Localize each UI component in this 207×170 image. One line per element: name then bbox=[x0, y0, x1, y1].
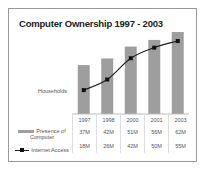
value-cell: 55M bbox=[169, 139, 193, 153]
table-row-computer: 37M 42M 51M 56M 62M bbox=[73, 125, 193, 139]
line-marker bbox=[105, 77, 109, 81]
legend-computer: Presence of Computer bbox=[14, 128, 70, 140]
value-cell: 42M bbox=[121, 139, 145, 153]
line-marker bbox=[176, 39, 180, 43]
legend-internet: Internet Access bbox=[14, 147, 70, 153]
value-cell: 18M bbox=[73, 139, 97, 153]
line-marker-icon bbox=[15, 150, 29, 151]
value-cell: 50M bbox=[145, 139, 169, 153]
bar bbox=[172, 32, 184, 114]
table-header-row: 1997 1998 2000 2001 2003 bbox=[73, 115, 193, 125]
data-table: 1997 1998 2000 2001 2003 37M 42M 51M 56M… bbox=[72, 115, 192, 153]
year-cell: 1997 bbox=[73, 115, 97, 125]
value-cell: 37M bbox=[73, 125, 97, 139]
year-cell: 1998 bbox=[97, 115, 121, 125]
value-cell: 51M bbox=[121, 125, 145, 139]
value-cell: 26M bbox=[97, 139, 121, 153]
line-marker bbox=[82, 88, 86, 92]
bar bbox=[148, 40, 160, 114]
line-marker bbox=[129, 56, 133, 60]
bar-swatch-icon bbox=[18, 130, 34, 133]
value-cell: 56M bbox=[145, 125, 169, 139]
bar-series bbox=[78, 32, 184, 114]
year-cell: 2000 bbox=[121, 115, 145, 125]
year-cell: 2001 bbox=[145, 115, 169, 125]
bar bbox=[101, 58, 113, 114]
line-marker bbox=[152, 46, 156, 50]
value-cell: 42M bbox=[97, 125, 121, 139]
year-cell: 2003 bbox=[169, 115, 193, 125]
table-row-internet: 18M 26M 42M 50M 55M bbox=[73, 139, 193, 153]
value-cell: 62M bbox=[169, 125, 193, 139]
